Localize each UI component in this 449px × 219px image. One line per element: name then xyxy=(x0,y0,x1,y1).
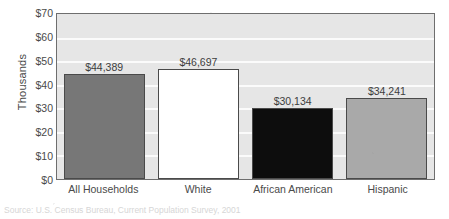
y-tick-label: $60 xyxy=(0,31,53,43)
y-tick-label: $70 xyxy=(0,7,53,19)
figure-caption: Source: U.S. Census Bureau, Current Popu… xyxy=(4,205,304,216)
y-tick-label: $40 xyxy=(0,79,53,91)
bar-white[interactable]: $46,697 xyxy=(158,69,239,179)
chart-figure: Thousands $70 $60 $50 $40 $30 $20 $10 $0… xyxy=(0,0,449,219)
bar-african-american[interactable]: $30,134 xyxy=(252,108,333,179)
bar-series: $44,389 $46,697 $30,134 $34,241 xyxy=(57,14,434,179)
y-tick-label: $10 xyxy=(0,150,53,162)
y-tick-label: $20 xyxy=(0,126,53,138)
bar-value-label: $30,134 xyxy=(274,95,312,107)
bar-value-label: $34,241 xyxy=(368,85,406,97)
bar-hispanic[interactable]: $34,241 xyxy=(346,98,427,179)
bar-cell-all-households: $44,389 xyxy=(57,14,151,179)
x-tick-label-hispanic: Hispanic xyxy=(340,183,435,195)
bar-cell-african-american: $30,134 xyxy=(246,14,340,179)
y-tick-label: $0 xyxy=(0,174,53,186)
y-tick-label: $30 xyxy=(0,102,53,114)
bar-all-households[interactable]: $44,389 xyxy=(64,74,145,179)
plot-area: $44,389 $46,697 $30,134 $34,241 xyxy=(56,13,435,180)
bar-cell-hispanic: $34,241 xyxy=(340,14,434,179)
x-axis-tick-labels: All Households White African American Hi… xyxy=(56,183,435,195)
x-tick-label-white: White xyxy=(151,183,246,195)
bar-cell-white: $46,697 xyxy=(151,14,245,179)
bar-value-label: $44,389 xyxy=(85,61,123,73)
y-tick-label: $50 xyxy=(0,55,53,67)
x-tick-label-all-households: All Households xyxy=(56,183,151,195)
y-axis-tick-labels: $70 $60 $50 $40 $30 $20 $10 $0 xyxy=(0,13,53,180)
bar-value-label: $46,697 xyxy=(179,56,217,68)
x-tick-label-african-american: African American xyxy=(246,183,341,195)
